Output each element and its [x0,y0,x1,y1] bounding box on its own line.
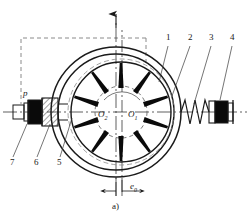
callout-label-3: 3 [209,33,214,42]
pressure-label-p: p [23,89,28,98]
callout-label-5: 5 [57,158,62,167]
center-label-O2-sub: 2 [105,115,108,121]
callout-label-7: 7 [10,158,15,167]
callout-label-2: 2 [188,33,193,42]
center-label-O1: O1 [128,110,138,121]
adjuster-block [215,101,228,123]
figure-caption: a) [112,202,119,211]
eccentricity-label-sub: 0 [134,187,137,193]
callout-label-6: 6 [34,158,39,167]
callout-label-4: 4 [230,33,235,42]
center-label-O1-sub: 1 [135,115,138,121]
figure-container: 1 2 3 4 5 6 7 p O2 O1 e0 a) [0,0,250,217]
callout-label-1: 1 [166,33,171,42]
center-label-O2: O2 [98,110,108,121]
hatched-push-block [42,98,58,126]
eccentricity-label-e0: e0 [130,182,137,193]
control-piston [28,100,42,124]
